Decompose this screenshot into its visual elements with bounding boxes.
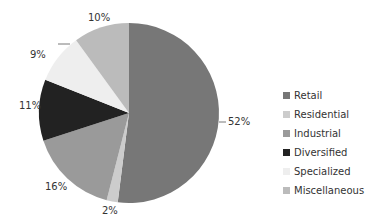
legend-swatch	[283, 149, 290, 156]
legend-label: Miscellaneous	[294, 185, 364, 196]
legend-label: Retail	[294, 90, 322, 101]
label-specialized: 9%	[30, 49, 46, 60]
label-residential: 2%	[102, 205, 118, 216]
legend-item-residential: Residential	[283, 105, 364, 124]
legend-label: Industrial	[294, 128, 341, 139]
legend: Retail Residential Industrial Diversifie…	[283, 86, 364, 200]
legend-item-industrial: Industrial	[283, 124, 364, 143]
legend-item-specialized: Specialized	[283, 162, 364, 181]
legend-swatch	[283, 111, 290, 118]
legend-swatch	[283, 168, 290, 175]
legend-item-miscellaneous: Miscellaneous	[283, 181, 364, 200]
legend-swatch	[283, 187, 290, 194]
legend-item-retail: Retail	[283, 86, 364, 105]
label-industrial: 16%	[45, 181, 67, 192]
legend-swatch	[283, 130, 290, 137]
legend-item-diversified: Diversified	[283, 143, 364, 162]
legend-label: Specialized	[294, 166, 351, 177]
legend-label: Diversified	[294, 147, 347, 158]
label-diversified: 11%	[19, 100, 41, 111]
pie-slice-retail	[118, 23, 219, 203]
legend-label: Residential	[294, 109, 349, 120]
legend-swatch	[283, 92, 290, 99]
label-miscellaneous: 10%	[88, 12, 110, 23]
label-retail: 52%	[228, 116, 250, 127]
